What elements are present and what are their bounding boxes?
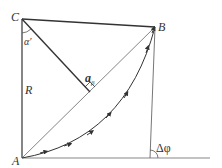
diagram-svg [0,0,222,168]
diagram-canvas: C B A R α′ aβ Δφ [0,0,222,168]
edge-b-vertical [150,27,155,158]
label-alpha: α′ [24,37,31,47]
edge-cb [22,19,155,27]
label-a-beta-sub: β [91,79,95,87]
label-a: A [12,155,19,167]
label-delta-phi: Δφ [156,142,171,154]
chord-ab [22,27,155,158]
label-a-beta: aβ [85,72,95,87]
alpha-arc [22,29,31,33]
perpendicular-c [22,19,90,92]
label-b: B [158,21,165,33]
label-r: R [25,84,32,96]
label-c: C [11,11,19,23]
